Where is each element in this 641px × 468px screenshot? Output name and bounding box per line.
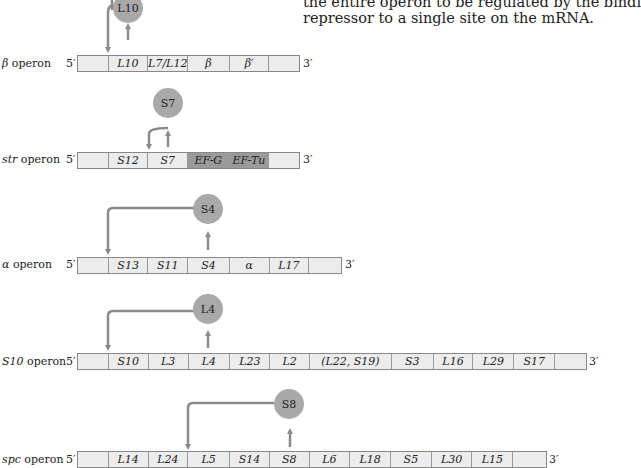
gene-cell: [78, 153, 109, 168]
gene-bar-beta: L10 L7/L12 β β′: [77, 55, 300, 72]
three-prime-label: 3′: [549, 453, 559, 466]
repressor-l4: L4: [193, 294, 223, 324]
gene-cell: S7: [148, 153, 188, 168]
three-prime-label: 3′: [303, 57, 313, 70]
gene-bar-s10: S10 L3 L4 L23 L2 (L22, S19) S3 L16 L29 S…: [77, 353, 587, 370]
gene-cell: S8: [270, 452, 310, 467]
gene-cell: L7/L12: [148, 56, 188, 71]
gene-cell: L4: [189, 354, 231, 369]
gene-cell: [269, 153, 299, 168]
gene-cell: L29: [473, 354, 514, 369]
gene-cell: L15: [472, 452, 513, 467]
operon-label-beta: β operon: [2, 57, 51, 70]
gene-cell: [78, 56, 109, 71]
gene-cell: [78, 258, 109, 273]
gene-cell: S4: [188, 258, 230, 273]
three-prime-label: 3′: [303, 153, 313, 166]
gene-cell: S12: [109, 153, 149, 168]
operon-label-str: str operon: [2, 153, 60, 166]
operon-label-spc: spc operon: [2, 453, 64, 466]
gene-cell-dark: EF-G: [188, 153, 230, 168]
repressor-s4: S4: [193, 194, 223, 224]
gene-cell: L5: [188, 452, 230, 467]
five-prime-label: 5′: [66, 355, 76, 368]
repressor-s7: S7: [153, 88, 183, 118]
gene-cell: [309, 258, 341, 273]
gene-cell: S11: [148, 258, 188, 273]
gene-cell: [269, 56, 299, 71]
gene-cell: S17: [514, 354, 555, 369]
gene-cell: L3: [149, 354, 189, 369]
gene-cell: α: [230, 258, 270, 273]
gene-cell: S14: [230, 452, 270, 467]
gene-cell: L2: [270, 354, 310, 369]
five-prime-label: 5′: [66, 453, 76, 466]
gene-cell: [513, 452, 546, 467]
five-prime-label: 5′: [66, 153, 76, 166]
three-prime-label: 3′: [589, 355, 599, 368]
gene-cell: L10: [109, 56, 149, 71]
gene-cell-dark: EF-Tu: [230, 153, 270, 168]
gene-cell: [555, 354, 586, 369]
five-prime-label: 5′: [66, 258, 76, 271]
operon-label-alpha: α operon: [2, 258, 52, 271]
gene-cell: L18: [350, 452, 391, 467]
gene-cell: [78, 354, 109, 369]
gene-cell: β: [188, 56, 230, 71]
gene-bar-alpha: S13 S11 S4 α L17: [77, 257, 342, 274]
gene-cell: L17: [270, 258, 310, 273]
gene-bar-spc: L14 L24 L5 S14 S8 L6 L18 S5 L30 L15: [77, 451, 547, 468]
gene-cell: S5: [391, 452, 432, 467]
gene-cell: L24: [149, 452, 189, 467]
gene-cell: [78, 452, 109, 467]
operon-label-s10: S10 operon: [2, 355, 66, 368]
three-prime-label: 3′: [345, 258, 355, 271]
five-prime-label: 5′: [66, 57, 76, 70]
gene-cell: L6: [310, 452, 351, 467]
repressor-s8: S8: [274, 389, 304, 419]
gene-cell: S10: [109, 354, 149, 369]
gene-cell: β′: [230, 56, 270, 71]
gene-bar-str: S12 S7 EF-G EF-Tu: [77, 152, 300, 169]
gene-cell: L16: [434, 354, 474, 369]
gene-cell: L14: [109, 452, 149, 467]
gene-cell: L30: [432, 452, 473, 467]
gene-cell: L23: [230, 354, 270, 369]
gene-cell: (L22, S19): [310, 354, 392, 369]
gene-cell: S3: [392, 354, 434, 369]
gene-cell: S13: [109, 258, 149, 273]
